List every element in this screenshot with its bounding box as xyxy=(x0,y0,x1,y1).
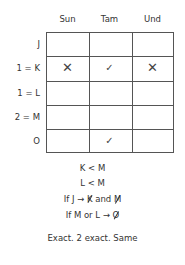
check-icon: ✓ xyxy=(88,56,131,80)
grid-divider xyxy=(47,81,173,82)
rule-if-j-prefix: If J → xyxy=(64,194,85,204)
grid-divider xyxy=(47,105,173,106)
row-label-k: 1 = K xyxy=(16,56,40,80)
column-header-sun: Sun xyxy=(46,14,89,24)
row-label-j: J xyxy=(37,32,40,56)
rule-if-j: If J → K and M xyxy=(0,194,185,204)
summary-note: Exact. 2 exact. Same xyxy=(0,233,185,243)
rule-if-m-or-l-prefix: If M or L → xyxy=(66,210,110,220)
rule-if-j-and: and xyxy=(95,194,111,204)
grid-divider xyxy=(132,33,133,152)
rule-if-m-or-l: If M or L → O xyxy=(0,210,185,220)
cross-icon: ✕ xyxy=(46,56,89,80)
row-label-m: 2 = M xyxy=(15,105,40,129)
row-label-o: O xyxy=(33,129,40,153)
check-icon: ✓ xyxy=(88,129,131,153)
rule-l-less-m: L < M xyxy=(0,178,185,188)
column-header-tam: Tam xyxy=(88,14,131,24)
struck-m: M xyxy=(114,194,121,204)
struck-o: O xyxy=(113,210,120,220)
cross-icon: ✕ xyxy=(131,56,174,80)
column-header-und: Und xyxy=(131,14,174,24)
struck-k: K xyxy=(87,194,93,204)
rule-k-less-m: K < M xyxy=(0,163,185,173)
row-label-l: 1 = L xyxy=(17,81,40,105)
